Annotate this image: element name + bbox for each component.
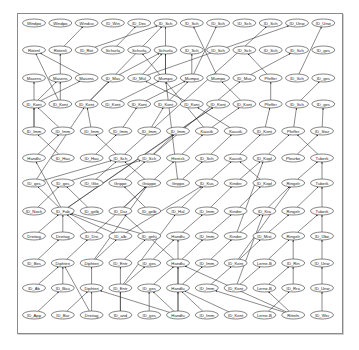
graph-node[interactable]: Schurla: [101, 46, 124, 54]
graph-node[interactable]: Rötenli: [49, 46, 72, 54]
graph-node[interactable]: ID_Sch: [154, 19, 177, 27]
graph-node[interactable]: ID_alb: [109, 232, 132, 240]
graph-node[interactable]: ID_Sch: [109, 154, 132, 162]
graph-node[interactable]: ID_Imm: [167, 127, 190, 135]
graph-node[interactable]: ID_gelb: [138, 207, 161, 215]
graph-node[interactable]: ID_Kont: [224, 311, 247, 319]
graph-node[interactable]: ID_Imm: [109, 127, 132, 135]
graph-node[interactable]: ID_Unw: [311, 259, 334, 267]
graph-node[interactable]: ID_Imm: [23, 127, 46, 135]
graph-node[interactable]: ID_ges: [312, 74, 335, 82]
graph-node[interactable]: ID_Kont: [233, 100, 256, 108]
graph-node[interactable]: ID_ges: [138, 311, 161, 319]
graph-node[interactable]: ID_Kont: [224, 284, 247, 292]
graph-node[interactable]: ID_Hau: [51, 154, 74, 162]
graph-node[interactable]: ID_Sch: [207, 19, 230, 27]
graph-node[interactable]: ID_Kont: [180, 100, 203, 108]
graph-node[interactable]: ID_Imm: [195, 207, 218, 215]
graph-node[interactable]: ID_Sch: [286, 74, 309, 82]
graph-node[interactable]: ID_Win: [101, 19, 124, 27]
graph-node[interactable]: Tuberk: [311, 154, 334, 162]
graph-node[interactable]: ID_Kont: [128, 100, 151, 108]
graph-node[interactable]: ID_Star: [311, 127, 334, 135]
graph-node[interactable]: Handlu: [23, 154, 46, 162]
graph-node[interactable]: ID_Entr: [109, 284, 132, 292]
graph-node[interactable]: Grippe: [167, 179, 190, 187]
graph-node[interactable]: ID_Kopf: [253, 154, 276, 162]
graph-node[interactable]: ID_Sch: [207, 46, 230, 54]
graph-node[interactable]: ID_Sch: [233, 46, 256, 54]
graph-node[interactable]: ID_Kra: [253, 207, 276, 215]
graph-node[interactable]: ID_ges: [23, 179, 46, 187]
graph-node[interactable]: ID_Sch: [286, 100, 309, 108]
graph-node[interactable]: ID_Imm: [195, 311, 218, 319]
graph-node[interactable]: ID_Glie: [80, 179, 103, 187]
graph-node[interactable]: Grippe: [109, 179, 132, 187]
graph-node[interactable]: ID_Unw: [312, 19, 335, 27]
graph-node[interactable]: ID_Sch: [180, 19, 203, 27]
graph-node[interactable]: ID_Kont: [23, 100, 46, 108]
graph-node[interactable]: ID_Kont: [75, 100, 98, 108]
graph-node[interactable]: ID_Kont: [154, 100, 177, 108]
graph-node[interactable]: Windpo: [23, 19, 46, 27]
graph-node[interactable]: Hereck: [167, 154, 190, 162]
graph-node[interactable]: ID_Kont: [253, 127, 276, 135]
graph-node[interactable]: ID_ges: [312, 46, 335, 54]
graph-node[interactable]: ID_Sch: [233, 19, 256, 27]
graph-node[interactable]: ID_ges: [138, 284, 161, 292]
graph-node[interactable]: ID_Kopf: [253, 179, 276, 187]
graph-node[interactable]: ID_Wei: [311, 311, 334, 319]
graph-node[interactable]: ID_Kont: [49, 100, 72, 108]
graph-node[interactable]: Handlu: [167, 232, 190, 240]
graph-node[interactable]: ID_Bes: [23, 259, 46, 267]
graph-node[interactable]: Kinder: [224, 232, 247, 240]
graph-node[interactable]: ID_Sch: [138, 154, 161, 162]
graph-node[interactable]: ID_gefü: [138, 232, 161, 240]
graph-node[interactable]: Rötenl: [23, 46, 46, 54]
graph-node[interactable]: ID_Dre: [80, 232, 103, 240]
graph-node[interactable]: Ringelr: [282, 207, 305, 215]
graph-node[interactable]: Mumpo: [180, 74, 203, 82]
graph-node[interactable]: Windpo: [49, 19, 72, 27]
graph-node[interactable]: Pfeffer: [282, 127, 305, 135]
graph-node[interactable]: ID_Noch: [23, 207, 46, 215]
graph-node[interactable]: ID_Sch: [259, 46, 282, 54]
graph-node[interactable]: Ringelr: [282, 232, 305, 240]
graph-node[interactable]: ID_Hau: [80, 154, 103, 162]
graph-node[interactable]: Diphteri: [80, 284, 103, 292]
graph-node[interactable]: Schurla: [128, 46, 151, 54]
graph-node[interactable]: Pfeffer: [259, 100, 282, 108]
graph-node[interactable]: ID_Kont: [207, 100, 230, 108]
graph-node[interactable]: Diphteri: [80, 259, 103, 267]
graph-node[interactable]: ID_Mist: [253, 232, 276, 240]
graph-node[interactable]: ID_Bau: [51, 284, 74, 292]
graph-node[interactable]: Lerne-B: [253, 284, 276, 292]
graph-node[interactable]: Dreitag: [23, 232, 46, 240]
graph-node[interactable]: ID_Rin: [282, 259, 305, 267]
graph-node[interactable]: ID_Kont: [224, 259, 247, 267]
graph-node[interactable]: ID_Imm: [195, 232, 218, 240]
graph-node[interactable]: ID_ges: [138, 259, 161, 267]
graph-node[interactable]: Tuberk: [311, 179, 334, 187]
graph-node[interactable]: ID_Hal: [167, 207, 190, 215]
graph-node[interactable]: Handlu: [167, 284, 190, 292]
graph-node[interactable]: Schurla: [154, 46, 177, 54]
graph-node[interactable]: Lerne-B: [253, 259, 276, 267]
graph-node[interactable]: ID_ges: [312, 100, 335, 108]
graph-node[interactable]: ID_Imm: [195, 259, 218, 267]
graph-node[interactable]: Mumpo: [207, 74, 230, 82]
graph-node[interactable]: Masens: [23, 74, 46, 82]
graph-node[interactable]: ID_Mus: [233, 74, 256, 82]
graph-node[interactable]: Masens: [75, 74, 98, 82]
graph-node[interactable]: ID_ges: [51, 179, 74, 187]
graph-node[interactable]: Windco: [75, 19, 98, 27]
graph-node[interactable]: ID_Ab: [23, 284, 46, 292]
graph-node[interactable]: ID_gelb: [80, 207, 103, 215]
graph-node[interactable]: Kaustk: [224, 154, 247, 162]
graph-node[interactable]: ID_Mül: [128, 74, 151, 82]
graph-node[interactable]: Kinder: [224, 207, 247, 215]
graph-node[interactable]: Masens: [49, 74, 72, 82]
graph-node[interactable]: Pfeffer: [259, 74, 282, 82]
graph-node[interactable]: ID_Imm: [80, 127, 103, 135]
graph-node[interactable]: Handlu: [167, 311, 190, 319]
